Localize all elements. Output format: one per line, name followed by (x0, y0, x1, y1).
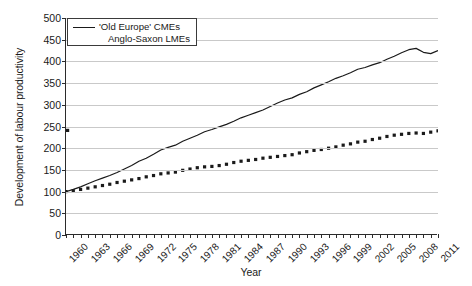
x-tick-mark (205, 234, 206, 238)
x-tick-mark (270, 234, 271, 238)
y-tick-mark (62, 170, 66, 171)
x-tick-mark (110, 234, 111, 238)
x-tick-mark (212, 234, 213, 238)
x-tick-mark (117, 234, 118, 238)
y-tick-mark (62, 213, 66, 214)
y-tick-mark (62, 192, 66, 193)
y-axis-title: Development of labour productivity (10, 4, 28, 250)
x-tick-mark (132, 234, 133, 238)
x-tick-mark (278, 234, 279, 238)
x-tick-mark (350, 234, 351, 238)
y-tick-label: 400 (27, 55, 61, 67)
x-tick-label: 1996 (329, 241, 353, 265)
x-tick-label: 1987 (263, 241, 287, 265)
x-tick-mark (307, 234, 308, 238)
x-tick-mark (146, 234, 147, 238)
x-tick-mark (81, 234, 82, 238)
series-2-markers (66, 129, 438, 193)
gridline (66, 61, 438, 62)
x-tick-mark (256, 234, 257, 238)
gridline (66, 148, 438, 149)
x-tick-label: 1990 (285, 241, 309, 265)
x-tick-mark (197, 234, 198, 238)
y-tick-mark (62, 148, 66, 149)
gridline (66, 105, 438, 106)
gridline (66, 83, 438, 84)
x-tick-mark (372, 234, 373, 238)
x-tick-label: 2011 (438, 241, 461, 264)
x-tick-mark (226, 234, 227, 238)
x-tick-mark (438, 234, 439, 238)
x-tick-mark (95, 234, 96, 238)
x-tick-mark (380, 234, 381, 238)
y-tick-label: 100 (27, 186, 61, 198)
x-tick-mark (175, 234, 176, 238)
x-tick-mark (88, 234, 89, 238)
x-tick-mark (299, 234, 300, 238)
x-tick-mark (183, 234, 184, 238)
chart-legend: 'Old Europe' CMEs Anglo-Saxon LMEs (67, 18, 197, 46)
x-tick-mark (168, 234, 169, 238)
x-tick-mark (423, 234, 424, 238)
y-tick-mark (62, 18, 66, 19)
legend-item-old-europe-cmes: 'Old Europe' CMEs (72, 21, 191, 33)
legend-line-icon (72, 21, 95, 33)
y-tick-label: 150 (27, 164, 61, 176)
x-tick-mark (102, 234, 103, 238)
x-tick-label: 1981 (220, 241, 244, 265)
x-tick-mark (219, 234, 220, 238)
x-tick-label: 1993 (307, 241, 331, 265)
x-axis-title: Year (65, 266, 437, 278)
x-tick-mark (321, 234, 322, 238)
x-tick-label: 1963 (88, 241, 112, 265)
y-tick-mark (62, 83, 66, 84)
y-tick-label: 250 (27, 121, 61, 133)
gridline (66, 170, 438, 171)
legend-label: 'Old Europe' CMEs (99, 21, 191, 32)
x-tick-mark (248, 234, 249, 238)
x-tick-mark (190, 234, 191, 238)
gridline (66, 192, 438, 193)
x-tick-mark (343, 234, 344, 238)
x-tick-mark (161, 234, 162, 238)
x-tick-label: 1960 (67, 241, 91, 265)
y-tick-label: 0 (27, 229, 61, 241)
x-tick-mark (387, 234, 388, 238)
y-tick-label: 350 (27, 77, 61, 89)
x-tick-mark (66, 234, 67, 238)
y-tick-label: 450 (27, 34, 61, 46)
x-tick-label: 1984 (242, 241, 266, 265)
gridline (66, 127, 438, 128)
x-tick-mark (365, 234, 366, 238)
x-tick-mark (241, 234, 242, 238)
x-tick-label: 2005 (395, 241, 419, 265)
x-tick-label: 2002 (373, 241, 397, 265)
x-tick-label: 1999 (351, 241, 375, 265)
chart-figure: Development of labour productivity 05010… (0, 0, 472, 286)
x-tick-mark (329, 234, 330, 238)
x-tick-mark (431, 234, 432, 238)
y-tick-label: 500 (27, 12, 61, 24)
x-tick-mark (336, 234, 337, 238)
x-tick-mark (234, 234, 235, 238)
x-tick-mark (416, 234, 417, 238)
y-tick-label: 50 (27, 207, 61, 219)
x-tick-mark (314, 234, 315, 238)
x-tick-label: 1978 (198, 241, 222, 265)
x-tick-label: 1966 (110, 241, 134, 265)
legend-item-anglo-saxon-lmes: Anglo-Saxon LMEs (72, 33, 191, 45)
plot-area: 050100150200250300350400450500 196019631… (65, 18, 437, 235)
x-tick-mark (402, 234, 403, 238)
x-tick-mark (394, 234, 395, 238)
y-tick-label: 300 (27, 99, 61, 111)
x-tick-mark (154, 234, 155, 238)
x-tick-mark (409, 234, 410, 238)
y-tick-mark (62, 40, 66, 41)
x-tick-mark (263, 234, 264, 238)
y-tick-mark (62, 127, 66, 128)
x-tick-mark (124, 234, 125, 238)
x-tick-mark (73, 234, 74, 238)
x-tick-label: 1975 (176, 241, 200, 265)
x-tick-mark (285, 234, 286, 238)
y-tick-mark (62, 105, 66, 106)
